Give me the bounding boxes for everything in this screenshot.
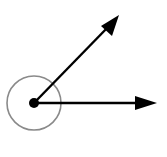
vertex-dot [29,98,39,108]
angle-diagram [0,0,167,157]
arrowhead-right-icon [135,96,157,110]
ray-upper [34,25,110,103]
